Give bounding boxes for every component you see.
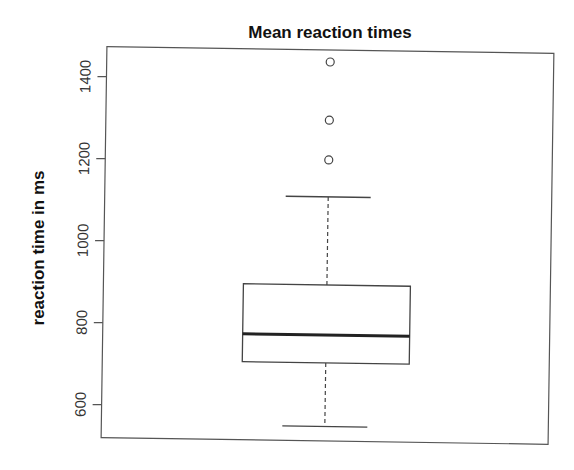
y-tick-label-600: 600 <box>71 392 88 417</box>
y-axis-label: reaction time in ms <box>29 171 48 326</box>
y-tick-label-800: 800 <box>73 310 90 335</box>
y-axis: 600800100012001400 <box>71 60 106 418</box>
boxes <box>241 57 413 428</box>
y-tick-label-1400: 1400 <box>76 60 93 94</box>
iqr-box <box>242 284 410 364</box>
y-tick-label-1000: 1000 <box>74 224 91 258</box>
upper-whisker <box>327 197 328 285</box>
lower-whisker-cap <box>282 426 367 427</box>
boxplot-chart: Mean reaction times reaction time in ms … <box>0 0 574 470</box>
chart-title: Mean reaction times <box>248 23 411 42</box>
plot-frame <box>101 47 554 445</box>
outlier-point <box>326 58 334 66</box>
y-tick-label-1200: 1200 <box>75 142 92 176</box>
upper-whisker-cap <box>286 196 371 197</box>
box-group <box>241 57 413 428</box>
outlier-point <box>325 156 333 164</box>
outlier-point <box>325 116 333 124</box>
lower-whisker <box>325 363 326 427</box>
